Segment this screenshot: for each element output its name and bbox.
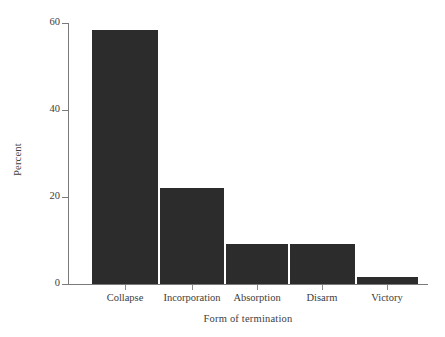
x-axis-title: Form of termination [68, 313, 428, 324]
x-tick-label-victory: Victory [352, 291, 422, 304]
bar-disarm [290, 244, 355, 284]
bar-incorporation [160, 188, 224, 284]
x-axis-line [68, 284, 428, 285]
bar-victory [357, 277, 418, 284]
bar-absorption [226, 244, 288, 284]
x-tick-mark-disarm [322, 285, 323, 290]
x-tick-label-absorption: Absorption [217, 291, 297, 304]
bar-chart: Percent 60 40 20 0 Collapse Incorporatio… [0, 0, 445, 337]
x-tick-mark-incorporation [192, 285, 193, 290]
x-tick-mark-victory [387, 285, 388, 290]
bar-collapse [92, 30, 158, 284]
x-tick-mark-absorption [257, 285, 258, 290]
x-tick-mark-collapse [125, 285, 126, 290]
plot-area [0, 0, 445, 337]
x-tick-label-disarm: Disarm [287, 291, 357, 304]
